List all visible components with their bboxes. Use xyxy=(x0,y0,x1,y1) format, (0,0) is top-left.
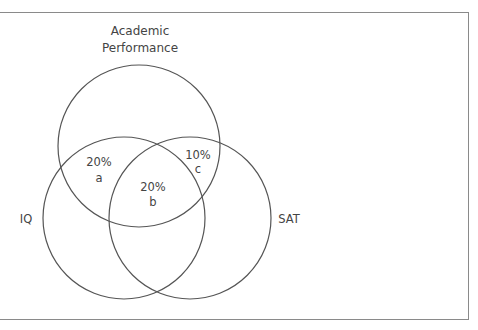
academic-performance-circle xyxy=(58,65,220,227)
region-c-value: 10% xyxy=(185,150,211,162)
academic-performance-label: Academic Performance xyxy=(70,23,210,57)
region-b-value: 20% xyxy=(140,182,166,194)
iq-circle xyxy=(43,137,205,299)
region-c-letter: c xyxy=(195,164,201,176)
region-a-letter: a xyxy=(95,173,102,185)
sat-label: SAT xyxy=(278,214,300,226)
academic-performance-label-line2: Performance xyxy=(70,40,210,57)
region-b-letter: b xyxy=(149,197,156,209)
region-a-value: 20% xyxy=(86,157,112,169)
academic-performance-label-line1: Academic xyxy=(70,23,210,40)
iq-label: IQ xyxy=(20,214,32,226)
